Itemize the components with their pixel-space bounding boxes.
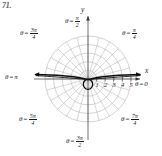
equals-symbol: = [126, 30, 131, 37]
x-tick-2: 2 [102, 81, 110, 88]
equals-symbol: = [9, 74, 14, 81]
angle-label-pi: θ = π [5, 74, 18, 81]
angle-label-3pi-over-2: θ = 3π 2 [66, 135, 84, 148]
equals-symbol: = [70, 138, 75, 145]
fraction-3pi-over-4: 3π 4 [30, 27, 38, 40]
fraction-pi-over-2: π 2 [75, 15, 80, 28]
theta-symbol: θ [135, 81, 138, 88]
theta-symbol: θ [20, 30, 23, 37]
fraction-7pi-over-4: 7π 4 [131, 113, 139, 126]
x-tick-5: 5 [127, 81, 135, 88]
zero-value: 0 [144, 81, 148, 88]
theta-symbol: θ [19, 116, 22, 123]
equals-symbol: = [139, 81, 144, 88]
equals-symbol: = [69, 18, 74, 25]
equals-symbol: = [24, 30, 29, 37]
angle-label-7pi-over-4: θ = 7π 4 [121, 113, 139, 126]
theta-symbol: θ [121, 116, 124, 123]
polar-grid-svg [0, 0, 162, 156]
pi-symbol: π [14, 74, 18, 81]
angle-label-zero: θ = 0 [135, 81, 148, 88]
theta-symbol: θ [122, 30, 125, 37]
polar-plot-figure: 71. [0, 0, 162, 156]
theta-symbol: θ [66, 138, 69, 145]
x-tick-3: 3 [110, 81, 118, 88]
fraction-3pi-over-2: 3π 2 [76, 135, 84, 148]
fraction-pi-over-4: π 4 [132, 27, 137, 40]
angle-label-3pi-over-4: θ = 3π 4 [20, 27, 38, 40]
theta-symbol: θ [5, 74, 8, 81]
theta-symbol: θ [65, 18, 68, 25]
equals-symbol: = [23, 116, 28, 123]
equals-symbol: = [125, 116, 130, 123]
angle-label-pi-over-2: θ = π 2 [65, 15, 80, 28]
angle-label-pi-over-4: θ = π 4 [122, 27, 137, 40]
x-axis-label: x [145, 66, 148, 75]
x-tick-1: 1 [93, 81, 101, 88]
x-tick-4: 4 [119, 81, 127, 88]
angle-label-5pi-over-4: θ = 5π 4 [19, 113, 37, 126]
y-axis-label: y [81, 5, 84, 14]
fraction-5pi-over-4: 5π 4 [29, 113, 37, 126]
